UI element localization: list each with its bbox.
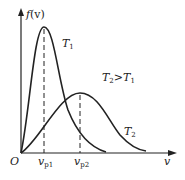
t2-label: T2 xyxy=(124,126,136,139)
relation-op: > xyxy=(114,71,123,84)
x-axis-label: v xyxy=(164,156,170,167)
vp2-label: vp2 xyxy=(74,156,89,169)
y-axis-label: f(v) xyxy=(26,9,45,20)
vp1-subscript: p1 xyxy=(44,161,53,169)
origin-label: O xyxy=(10,156,19,167)
y-axis-arrow-icon xyxy=(18,8,24,16)
vp2-subscript: p2 xyxy=(80,161,89,169)
t1-label: T1 xyxy=(62,38,74,51)
y-axis-label-arg: (v) xyxy=(30,8,45,21)
curve-t2 xyxy=(21,93,146,153)
speed-distribution-diagram: f(v) T1 T2>T1 T2 O vp1 vp2 v xyxy=(0,0,185,180)
relation-right-sub: 1 xyxy=(130,77,134,85)
t2-subscript: 2 xyxy=(131,131,135,139)
relation-label: T2>T1 xyxy=(102,72,135,85)
diagram-graphics xyxy=(0,0,185,180)
vp1-label: vp1 xyxy=(38,156,53,169)
t1-subscript: 1 xyxy=(69,43,73,51)
